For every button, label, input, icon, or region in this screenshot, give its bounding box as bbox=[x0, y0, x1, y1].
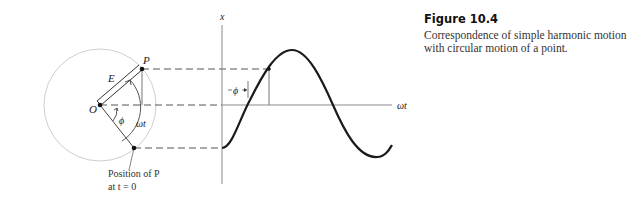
graph-point-dot bbox=[267, 67, 271, 71]
origin-dot bbox=[98, 103, 103, 108]
projection-lines bbox=[100, 69, 269, 148]
label-o: O bbox=[89, 103, 97, 115]
phi-arc bbox=[113, 108, 117, 121]
label-x-axis: x bbox=[219, 11, 225, 22]
label-phi-graph: ϕ bbox=[233, 85, 238, 96]
initial-point-dot bbox=[132, 146, 137, 151]
label-initial-line1: Position of P bbox=[108, 168, 160, 179]
figure-title: Figure 10.4 bbox=[424, 12, 640, 26]
point-p-dot bbox=[140, 67, 145, 72]
sine-curve bbox=[222, 50, 392, 157]
figure-caption-text: Correspondence of simple harmonic motion… bbox=[424, 29, 640, 55]
shm-circular-diagram: P O E ϕ ωt Position of P at t = 0 ϕ x ωt bbox=[0, 0, 420, 202]
label-omega-t-circle: ωt bbox=[136, 118, 146, 129]
label-p: P bbox=[142, 54, 150, 66]
label-e: E bbox=[107, 72, 115, 84]
phasor-e bbox=[97, 65, 143, 105]
figure-caption: Figure 10.4 Correspondence of simple har… bbox=[424, 12, 640, 55]
omega-t-arc bbox=[122, 80, 141, 141]
label-omega-t-axis: ωt bbox=[397, 100, 407, 111]
label-phi-circle: ϕ bbox=[119, 115, 124, 126]
label-initial-line2: at t = 0 bbox=[108, 181, 136, 192]
